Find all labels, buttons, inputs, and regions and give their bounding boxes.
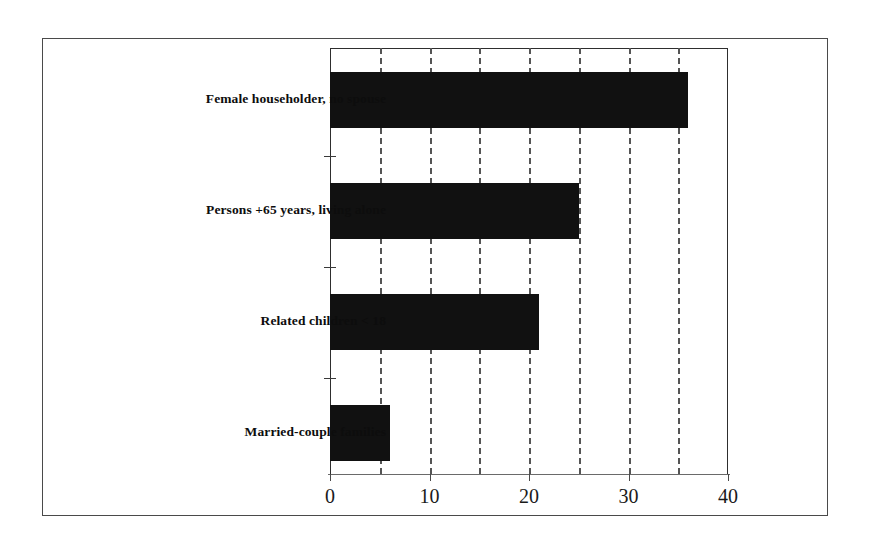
y-axis-tick	[324, 267, 336, 268]
category-label: Related children < 18	[68, 313, 398, 329]
x-axis-tick-label: 0	[300, 485, 360, 508]
x-axis-tick-label: 30	[599, 485, 659, 508]
category-label: Female householder, no spouse	[68, 91, 398, 107]
x-axis-tick-40	[728, 474, 729, 481]
x-axis-tick-30	[629, 474, 630, 481]
category-label: Married-couple families	[68, 424, 398, 440]
x-axis-tick-label: 40	[698, 485, 758, 508]
x-axis-tick-label: 20	[499, 485, 559, 508]
x-axis-tick-20	[529, 474, 530, 481]
x-axis-tick-label: 10	[400, 485, 460, 508]
y-axis-tick	[324, 378, 336, 379]
y-axis-tick	[324, 156, 336, 157]
x-axis-tick-10	[430, 474, 431, 481]
category-label: Persons +65 years, living alone	[68, 202, 398, 218]
chart-plot-area: 010203040 Female householder, no spouseP…	[330, 48, 728, 474]
x-axis-tick-0	[330, 474, 331, 481]
plot-right-border	[727, 48, 728, 474]
